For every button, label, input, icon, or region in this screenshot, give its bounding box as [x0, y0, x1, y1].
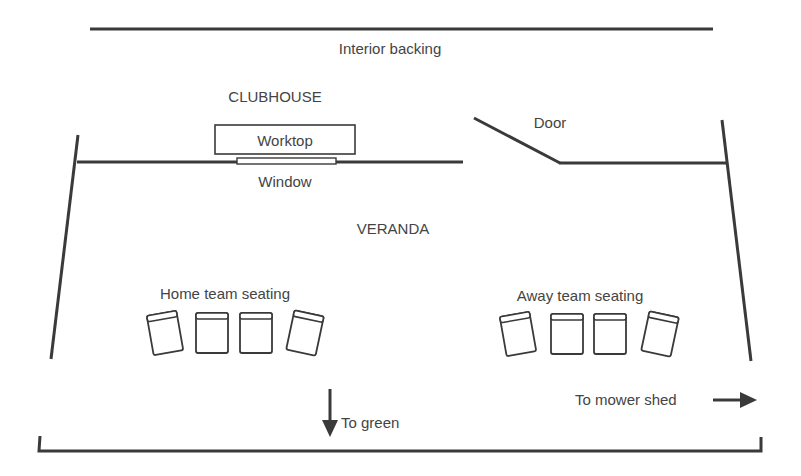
worktop-label: Worktop [257, 132, 313, 149]
door-label: Door [534, 114, 567, 131]
away-seating-label: Away team seating [517, 287, 643, 304]
interior-backing-label: Interior backing [339, 40, 442, 57]
clubhouse-label: CLUBHOUSE [228, 88, 321, 105]
chair-icon [641, 311, 679, 356]
home-seating-chairs [147, 310, 324, 355]
home-seating-label: Home team seating [160, 285, 290, 302]
window-label: Window [258, 173, 312, 190]
to-mower-shed-label: To mower shed [575, 391, 677, 408]
chair-icon [147, 311, 183, 356]
chair-icon [196, 313, 228, 353]
chair-icon [286, 310, 324, 355]
away-seating-chairs [500, 311, 679, 356]
bottom-boundary-line [39, 436, 761, 451]
arrow-right-icon [713, 392, 757, 408]
floor-plan-diagram: Interior backing CLUBHOUSE Worktop Windo… [0, 0, 801, 476]
chair-icon [240, 313, 272, 353]
to-green-label: To green [341, 414, 399, 431]
left-side-wall [51, 135, 78, 359]
chair-icon [551, 314, 583, 354]
window-shape [237, 158, 336, 164]
chair-icon [500, 312, 536, 357]
veranda-label: VERANDA [357, 220, 430, 237]
arrow-down-icon [322, 389, 338, 437]
right-side-wall [722, 120, 751, 361]
chair-icon [594, 314, 626, 354]
